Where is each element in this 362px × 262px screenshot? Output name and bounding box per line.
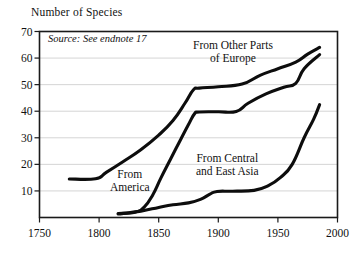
x-tick-label: 1750 (28, 227, 51, 239)
y-tick-label: 70 (21, 26, 33, 38)
y-tick-label: 30 (21, 132, 33, 144)
x-tick-label: 1850 (147, 227, 170, 239)
series-label-from-other-parts-of-europe: From Other Parts of Europe (193, 39, 273, 64)
source-note: Source: See endnote 17 (48, 33, 146, 44)
series-label-line-1: From Other Parts (193, 39, 273, 51)
series-label-from-central-and-east-asia: From Central and East Asia (196, 152, 259, 177)
x-tick-label: 1800 (88, 227, 111, 239)
series-label-line-1: From (117, 168, 142, 180)
series-label-line-2: and East Asia (196, 165, 259, 178)
y-tick-label: 40 (21, 105, 33, 117)
y-tick-label: 10 (21, 185, 33, 197)
x-tick-label: 2000 (326, 227, 349, 239)
series-label-from-america: From America (110, 168, 150, 193)
x-tick-label: 1950 (266, 227, 289, 239)
y-tick-label: 20 (21, 158, 33, 170)
series-label-line-2: of Europe (193, 52, 273, 65)
gridline-group (40, 32, 338, 191)
x-axis-tick-group: 175018001850190019502000 (28, 218, 349, 239)
series-label-line-1: From Central (196, 152, 258, 164)
chart-figure: Number of Species 10203040506070 1750180… (0, 0, 362, 262)
series-group (69, 47, 319, 214)
y-tick-label: 60 (21, 52, 33, 64)
y-tick-label: 50 (21, 79, 33, 91)
x-tick-label: 1900 (207, 227, 230, 239)
series-label-line-2: America (110, 181, 150, 194)
y-axis-tick-group: 10203040506070 (21, 26, 40, 197)
